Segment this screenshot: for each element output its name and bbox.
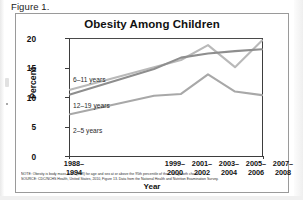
chart-plot [69,38,263,157]
scan-artifact-mark [5,78,9,87]
series-label-12-19-years: 12–19 years [73,102,110,109]
chart-source: SOURCE: CDC/NCHS Health, United States, … [21,177,285,182]
page-scan-left-edge [0,0,4,200]
y-tick-label-20: 20 [6,35,36,43]
x-axis-title: Year [16,182,288,191]
chart-title: Obesity Among Children [16,18,288,30]
y-tick-label-5: 5 [6,123,36,131]
y-axis-title: Percent [28,53,38,113]
figure-caption: Figure 1. [11,1,49,12]
y-tick-label-10: 10 [6,94,36,102]
chart-footnotes: NOTE: Obesity is body mass index (BMI) f… [21,172,285,181]
figure-box: Obesity Among Children Percent 20 15 10 … [15,13,289,193]
scan-artifact-dot [6,103,8,105]
y-tick-label-0: 0 [6,153,36,161]
series-line-12-19-years [70,49,262,94]
y-tick-label-15: 15 [6,64,36,72]
series-label-2-5-years: 2–5 years [73,127,102,134]
series-label-6-11-years: 6–11 years [73,76,106,83]
page-scan-bottom-edge [0,196,303,200]
